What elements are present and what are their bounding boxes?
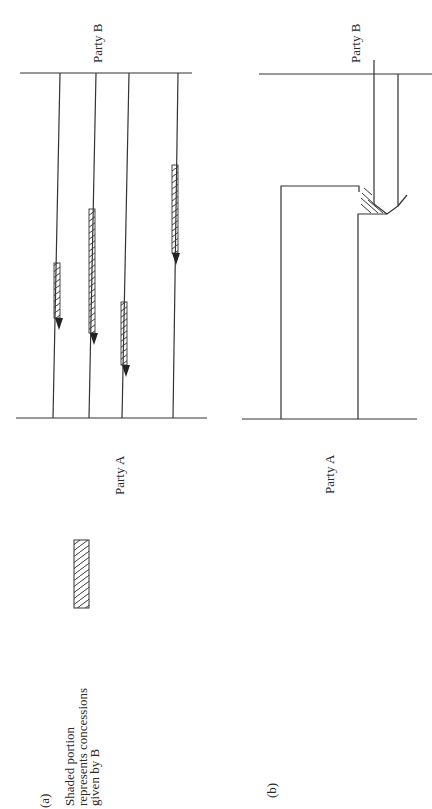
concession-hatch-4 bbox=[172, 165, 178, 253]
concession-hatch-2 bbox=[89, 209, 95, 333]
panel-b bbox=[242, 60, 432, 419]
panel-b-label: (b) bbox=[265, 783, 278, 798]
negotiation-line-2 bbox=[89, 73, 98, 418]
party-a-step bbox=[358, 214, 387, 419]
negotiation-line-3 bbox=[121, 73, 130, 418]
legend-line-3: given by B bbox=[88, 749, 101, 806]
arrowhead-icon bbox=[172, 253, 180, 265]
negotiation-diagram bbox=[0, 0, 432, 809]
concession-hatch-1 bbox=[54, 263, 60, 318]
party-b-label-a: Party B bbox=[91, 24, 104, 63]
panel-a bbox=[16, 73, 207, 608]
party-b-arrow-right bbox=[387, 74, 398, 214]
negotiation-line-1 bbox=[53, 73, 63, 418]
negotiation-line-4 bbox=[172, 73, 180, 418]
arrowhead-icon bbox=[55, 318, 63, 330]
party-a-label-b: Party A bbox=[323, 455, 336, 494]
party-b-arrow-left bbox=[374, 60, 387, 214]
concession-hatch-b bbox=[361, 188, 383, 213]
panel-a-label: (a) bbox=[38, 794, 51, 808]
concession-hatch-3 bbox=[121, 302, 127, 365]
party-a-label-a: Party A bbox=[113, 456, 126, 495]
party-b-arrow-flare bbox=[398, 195, 407, 206]
party-a-position-block bbox=[281, 186, 359, 419]
party-b-label-b: Party B bbox=[349, 24, 362, 63]
legend-hatch-swatch bbox=[74, 540, 89, 608]
